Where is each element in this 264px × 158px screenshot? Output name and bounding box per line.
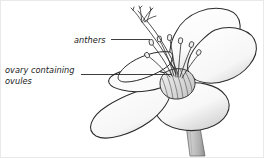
label-anthers-text: anthers [74, 35, 106, 45]
label-ovary-containing-ovules: ovary containing ovules [5, 65, 75, 86]
label-anthers: anthers [74, 35, 106, 46]
stigma [131, 6, 156, 22]
flower-diagram-figure: anthers ovary containing ovules [0, 0, 264, 158]
petal-lower-left [91, 85, 171, 138]
label-ovary-line2: ovules [5, 76, 75, 87]
label-ovary-line1: ovary containing [5, 65, 75, 75]
